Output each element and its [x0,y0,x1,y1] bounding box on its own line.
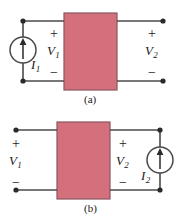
terminal-dot-b-top-left [13,127,18,132]
plus-sign-a-output: + [148,27,156,41]
minus-sign-b-input: − [12,176,20,190]
terminal-dot-a-top-right [160,18,165,23]
node-dot-b-top-right [157,127,162,132]
voltage-label-b-v2: V2 [116,154,129,170]
voltage-label-b-v1: V1 [9,154,22,170]
panel-b-circuit-diagram [0,107,183,214]
two-port-box-b [57,122,110,199]
node-dot-b-bottom-right [157,187,162,192]
source-label-i2: I2 [141,169,150,185]
voltage-label-a-v1: V1 [47,44,60,60]
plus-sign-a-input: + [50,27,58,41]
minus-sign-b-output: − [119,176,127,190]
caption-panel-a: (a) [84,94,96,105]
node-dot-a-bottom-left [20,78,25,83]
terminal-dot-a-bottom-right [160,78,165,83]
voltage-label-a-v2: V2 [145,44,158,60]
two-port-box-a [64,13,117,90]
plus-sign-b-input: + [12,137,20,151]
minus-sign-a-input: − [50,66,58,80]
source-label-i1: I1 [31,58,40,74]
plus-sign-b-output: + [119,137,127,151]
panel-b: + V1 − + V2 − I2 (b) [0,107,183,214]
minus-sign-a-output: − [148,66,156,80]
caption-panel-b: (b) [84,203,97,214]
panel-a: I1 + V1 − + V2 − (a) [0,0,183,107]
node-dot-a-top-left [20,18,25,23]
two-port-figure: I1 + V1 − + V2 − (a) [0,0,183,214]
